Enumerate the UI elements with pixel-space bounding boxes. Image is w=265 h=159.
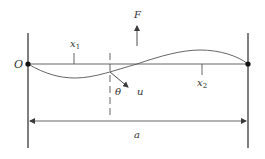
displacement-arrow xyxy=(110,72,128,87)
x1-label: x1 xyxy=(70,38,80,51)
length-label: a xyxy=(134,129,140,140)
left-pin xyxy=(25,61,30,66)
beam-diagram: O x1 F θ u x2 a xyxy=(0,0,265,159)
force-label: F xyxy=(133,9,142,20)
u-label: u xyxy=(137,86,143,97)
x2-label: x2 xyxy=(197,77,207,90)
origin-label: O xyxy=(14,58,23,71)
right-pin xyxy=(245,61,250,66)
theta-label: θ xyxy=(115,86,121,97)
